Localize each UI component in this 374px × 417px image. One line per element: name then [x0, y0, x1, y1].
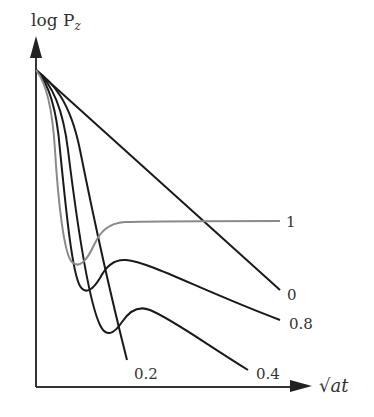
y-axis: [30, 36, 42, 387]
y-axis-arrow-icon: [30, 36, 42, 58]
y-axis-label: log Pz: [31, 10, 81, 33]
x-axis-label: √at: [319, 375, 349, 396]
curve-label-1: 1: [286, 213, 296, 231]
chart-canvas: log Pz √at 1 0 0.8 0.2 0.4: [0, 0, 374, 417]
x-axis-arrow-icon: [290, 380, 312, 392]
curve-label-0.2: 0.2: [134, 365, 158, 383]
curve-label-0.4: 0.4: [256, 365, 280, 383]
curve-0.2: [36, 70, 127, 360]
curve-label-0: 0: [287, 286, 297, 304]
curve-label-0.8: 0.8: [289, 315, 313, 333]
curve-1: [36, 70, 280, 265]
curve-0.8: [36, 70, 280, 320]
